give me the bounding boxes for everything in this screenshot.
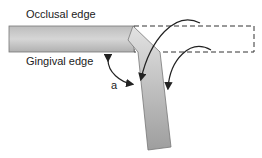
horizontal-wire-segment: [9, 26, 134, 52]
bend-arrow-gingival: [168, 47, 211, 88]
bent-wire-segment: [128, 26, 171, 150]
angle-label: a: [111, 79, 117, 91]
orthodontic-bend-diagram: Occlusal edge Gingival edge a: [0, 0, 262, 158]
gingival-edge-label: Gingival edge: [26, 55, 93, 67]
diagram-graphics: [0, 0, 262, 158]
occlusal-edge-label: Occlusal edge: [26, 8, 96, 20]
